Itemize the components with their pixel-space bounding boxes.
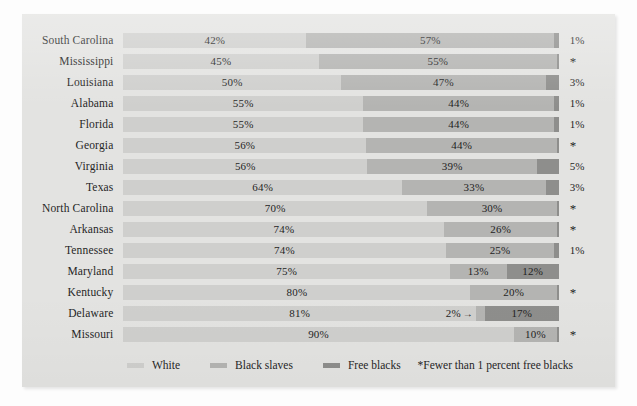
free-blacks-value: 1% — [559, 119, 615, 130]
table-row: Virginia56%39%5% — [22, 156, 615, 177]
bar-segment-white: 80% — [123, 285, 470, 300]
free-blacks-value: 3% — [559, 182, 615, 193]
bar-segment-white: 74% — [123, 222, 444, 237]
bar-segment-slaves: 25% — [446, 243, 555, 258]
bar-segment-slaves: 30% — [427, 201, 557, 216]
stacked-bar: 55%44% — [123, 117, 558, 132]
segment-value: 42% — [204, 35, 225, 46]
bar-segment-free: 17% — [485, 306, 559, 321]
stacked-bar: 56%39% — [123, 159, 558, 174]
bar-segment-slaves: 44% — [366, 138, 557, 153]
stacked-bar: 42%57% — [123, 33, 558, 48]
bar-segment-slaves: 26% — [444, 222, 557, 237]
table-row: Texas64%33%3% — [22, 177, 615, 198]
row-label-tennessee: Tennessee — [22, 245, 123, 257]
bar-segment-free — [546, 75, 559, 90]
free-blacks-value: 1% — [559, 98, 615, 109]
bar-segment-free — [537, 159, 559, 174]
segment-value: 44% — [451, 140, 472, 151]
bar-segment-white: 90% — [123, 327, 513, 342]
table-row: Louisiana50%47%3% — [22, 72, 615, 93]
segment-value: 44% — [448, 119, 469, 130]
free-blacks-star-note: * — [559, 331, 615, 339]
table-row: Florida55%44%1% — [22, 114, 615, 135]
segment-value: 56% — [235, 161, 256, 172]
chart-footnote: *Fewer than 1 percent free blacks — [418, 360, 574, 372]
segment-value: 64% — [252, 182, 273, 193]
table-row: Tennessee74%25%1% — [22, 240, 615, 261]
legend-swatch-icon — [323, 363, 340, 368]
segment-value: 47% — [433, 77, 454, 88]
bar-segment-free — [557, 54, 559, 69]
segment-value: 70% — [265, 203, 286, 214]
stacked-bar: 75%13%12% — [123, 264, 558, 279]
legend-item-black-slaves: Black slaves — [210, 360, 293, 372]
table-row: Georgia56%44%* — [22, 135, 615, 156]
table-row: Maryland75%13%12% — [22, 261, 615, 282]
free-blacks-star-note: * — [559, 226, 615, 234]
bar-segment-slaves: 57% — [306, 33, 554, 48]
row-label-maryland: Maryland — [22, 266, 123, 278]
bar-segment-white: 55% — [123, 96, 362, 111]
bar-segment-free — [557, 327, 559, 342]
segment-value: 75% — [276, 266, 297, 277]
segment-value: 10% — [525, 329, 546, 340]
stacked-bar: 50%47% — [123, 75, 558, 90]
free-blacks-star-note: * — [559, 205, 615, 213]
segment-value: 80% — [286, 287, 307, 298]
segment-value: 55% — [233, 98, 254, 109]
bar-segment-slaves: 39% — [367, 159, 537, 174]
segment-value: 55% — [427, 56, 448, 67]
bar-segment-white: 55% — [123, 117, 362, 132]
free-blacks-value: 5% — [559, 161, 615, 172]
bar-segment-free — [557, 201, 559, 216]
table-row: South Carolina42%57%1% — [22, 30, 615, 51]
stacked-bar: 56%44% — [123, 138, 558, 153]
bar-segment-free: 12% — [507, 264, 559, 279]
bar-segment-free — [557, 222, 559, 237]
bar-segment-free — [557, 285, 559, 300]
row-label-texas: Texas — [22, 182, 123, 194]
legend-item-free-blacks: Free blacks — [323, 360, 401, 372]
bar-segment-slaves: 44% — [363, 117, 555, 132]
bar-segment-white: 81% — [123, 306, 476, 321]
table-row: Kentucky80%20%* — [22, 282, 615, 303]
bar-segment-white: 45% — [123, 54, 318, 69]
segment-value: 20% — [503, 287, 524, 298]
segment-value: 56% — [234, 140, 255, 151]
row-label-alabama: Alabama — [22, 98, 123, 110]
row-label-kentucky: Kentucky — [22, 287, 123, 299]
segment-value: 74% — [273, 224, 294, 235]
legend-label: White — [152, 360, 180, 372]
bar-segment-white: 42% — [123, 33, 306, 48]
bar-segment-white: 74% — [123, 243, 445, 258]
row-label-arkansas: Arkansas — [22, 224, 123, 236]
stacked-bar: 55%44% — [123, 96, 558, 111]
segment-value: 26% — [490, 224, 511, 235]
legend-label: Free blacks — [348, 360, 401, 372]
free-blacks-value: 3% — [559, 77, 615, 88]
row-label-north-carolina: North Carolina — [22, 203, 123, 215]
segment-value: 44% — [448, 98, 469, 109]
bar-segment-white: 70% — [123, 201, 427, 216]
bar-segment-slaves: 20% — [470, 285, 557, 300]
stacked-bar: 70%30% — [123, 201, 558, 216]
segment-value: 50% — [222, 77, 243, 88]
row-label-georgia: Georgia — [22, 140, 123, 152]
bar-segment-free — [554, 96, 558, 111]
stacked-bar: 74%26% — [123, 222, 558, 237]
segment-value: 74% — [274, 245, 295, 256]
row-label-delaware: Delaware — [22, 308, 123, 320]
row-label-florida: Florida — [22, 119, 123, 131]
bar-segment-white: 75% — [123, 264, 450, 279]
segment-value: 2%→ — [446, 308, 473, 319]
free-blacks-value: 1% — [559, 245, 615, 256]
row-label-mississippi: Mississippi — [22, 56, 123, 68]
table-row: Missouri90%10%* — [22, 324, 615, 345]
bar-segment-free — [546, 180, 559, 195]
free-blacks-star-note: * — [559, 289, 615, 297]
legend-swatch-icon — [210, 363, 227, 368]
segment-value: 90% — [308, 329, 329, 340]
bar-segment-free — [554, 243, 558, 258]
segment-value: 12% — [522, 266, 543, 277]
